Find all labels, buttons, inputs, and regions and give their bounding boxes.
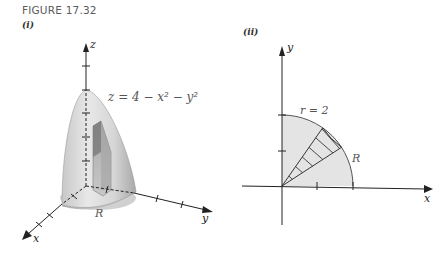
x-axis-label-3d: x: [33, 232, 39, 245]
region-r-label-2d: R: [352, 152, 360, 165]
surface-equation: z = 4 − x² − y²: [108, 90, 198, 104]
y-axis-label-3d: y: [202, 212, 208, 225]
panel-i-3d-plot: [22, 43, 213, 240]
figure-graphics: [0, 0, 448, 254]
region-r-label-3d: R: [95, 207, 103, 220]
x-axis-label-2d: x: [424, 192, 430, 205]
panel-ii-label: (ii): [243, 27, 258, 37]
quarter-disk-region: [282, 115, 353, 186]
curve-label-r-2: r = 2: [300, 104, 328, 117]
y-axis-label-2d: y: [287, 41, 293, 54]
panel-ii-2d-plot: [242, 46, 433, 225]
z-axis-label: z: [90, 38, 96, 51]
